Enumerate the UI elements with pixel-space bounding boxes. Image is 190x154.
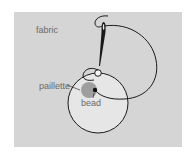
needle-icon (99, 22, 106, 66)
bead-label: bead (81, 99, 101, 108)
fabric-label: fabric (36, 26, 58, 35)
paillette-label: paillette (39, 82, 70, 91)
sewing-diagram (0, 0, 190, 154)
paillette-hole (95, 70, 102, 77)
